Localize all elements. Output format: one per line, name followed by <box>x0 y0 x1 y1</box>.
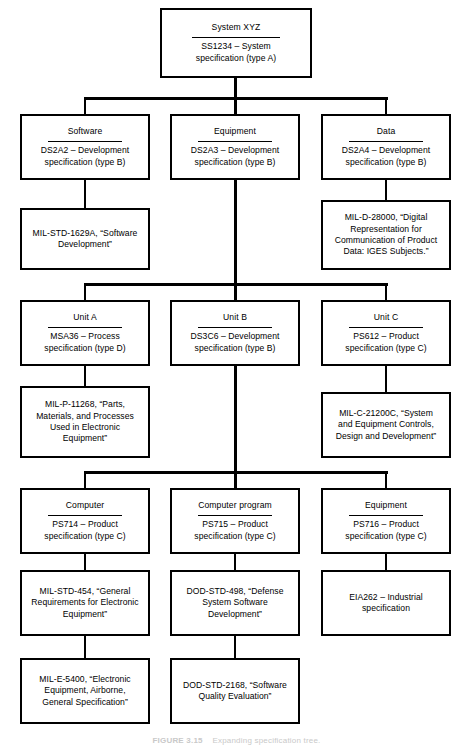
node-system-xyz[interactable]: System XYZ SS1234 – System specification… <box>160 8 312 78</box>
node-dod-std-2168[interactable]: DOD-STD-2168, “Software Quality Evaluati… <box>170 658 300 724</box>
node-mil-e-5400-text: MIL-E-5400, “Electronic Equipment, Airbo… <box>39 674 130 708</box>
figure-caption-text: Expanding specification tree. <box>212 736 320 745</box>
connector-equipment-level4-to-standard <box>385 554 387 570</box>
node-mil-p-11268[interactable]: MIL-P-11268, “Parts, Materials, and Proc… <box>20 386 150 458</box>
node-divider <box>198 515 272 516</box>
node-divider <box>349 515 423 516</box>
connector-bus-level2-right-drop <box>385 97 387 114</box>
node-equipment-level2-spec: DS2A3 – Development specification (type … <box>191 145 279 167</box>
node-divider <box>48 515 122 516</box>
connector-system-down <box>234 78 237 98</box>
connector-data-to-standard <box>385 180 387 200</box>
node-software-spec: DS2A2 – Development specification (type … <box>41 145 129 167</box>
node-divider <box>48 141 122 142</box>
node-computer-program-spec: PS715 – Product specification (type C) <box>194 519 275 541</box>
specification-tree-diagram: System XYZ SS1234 – System specification… <box>0 0 473 747</box>
node-divider <box>48 327 122 328</box>
node-unit-c-spec: PS612 – Product specification (type C) <box>345 331 426 353</box>
node-unit-a-title: Unit A <box>73 312 97 323</box>
node-dod-std-498-text: DOD-STD-498, “Defense System Software De… <box>186 586 283 620</box>
node-unit-b-title: Unit B <box>223 312 247 323</box>
connector-bus-level3-right-drop <box>385 283 387 300</box>
connector-bus-level4-left-drop <box>84 471 86 488</box>
node-system-xyz-title: System XYZ <box>212 22 261 33</box>
connector-software-to-standard <box>84 180 86 208</box>
node-software-title: Software <box>68 126 103 137</box>
node-mil-c-21200c[interactable]: MIL-C-21200C, “System and Equipment Cont… <box>321 392 451 458</box>
node-unit-c-title: Unit C <box>374 312 398 323</box>
node-data[interactable]: Data DS2A4 – Development specification (… <box>321 114 451 180</box>
node-mil-d-28000[interactable]: MIL-D-28000, “Digital Representation for… <box>321 200 451 270</box>
node-system-xyz-spec: SS1234 – System specification (type A) <box>196 41 276 63</box>
connector-equipment-level2-trunk <box>234 180 237 284</box>
node-mil-std-1629a-text: MIL-STD-1629A, “Software Development” <box>33 228 138 251</box>
node-computer-program[interactable]: Computer program PS715 – Product specifi… <box>170 488 300 554</box>
node-equipment-level4-title: Equipment <box>365 500 407 511</box>
node-divider <box>198 327 272 328</box>
node-divider <box>349 141 423 142</box>
connector-bus-level2-left-drop <box>84 97 86 114</box>
connector-bus-level3-left-drop <box>84 283 86 300</box>
node-computer-title: Computer <box>66 500 105 511</box>
node-equipment-level4-spec: PS716 – Product specification (type C) <box>345 519 426 541</box>
node-mil-c-21200c-text: MIL-C-21200C, “System and Equipment Cont… <box>336 408 437 442</box>
node-eia262-text: EIA262 – Industrial specification <box>349 592 423 615</box>
node-unit-c[interactable]: Unit C PS612 – Product specification (ty… <box>321 300 451 366</box>
connector-mil-std-454-to-mil-e-5400 <box>84 636 86 658</box>
node-software[interactable]: Software DS2A2 – Development specificati… <box>20 114 150 180</box>
node-equipment-level2-title: Equipment <box>214 126 256 137</box>
connector-unit-b-trunk <box>234 366 237 472</box>
node-eia262[interactable]: EIA262 – Industrial specification <box>321 570 451 636</box>
connector-bus-level2-mid-drop <box>234 97 237 114</box>
node-data-title: Data <box>377 126 396 137</box>
connector-dod-std-498-to-dod-std-2168 <box>234 636 236 658</box>
node-divider <box>198 141 272 142</box>
node-mil-e-5400[interactable]: MIL-E-5400, “Electronic Equipment, Airbo… <box>20 658 150 724</box>
node-divider <box>349 327 423 328</box>
node-unit-a-spec: MSA36 – Process specification (type D) <box>44 331 125 353</box>
node-computer-spec: PS714 – Product specification (type C) <box>44 519 125 541</box>
node-dod-std-2168-text: DOD-STD-2168, “Software Quality Evaluati… <box>183 680 287 703</box>
node-mil-d-28000-text: MIL-D-28000, “Digital Representation for… <box>335 212 437 258</box>
connector-bus-level4-mid-drop <box>234 471 237 488</box>
node-computer[interactable]: Computer PS714 – Product specification (… <box>20 488 150 554</box>
node-divider <box>192 37 280 38</box>
node-data-spec: DS2A4 – Development specification (type … <box>342 145 430 167</box>
figure-caption-label: FIGURE 3.15 <box>152 736 202 745</box>
node-equipment-level4[interactable]: Equipment PS716 – Product specification … <box>321 488 451 554</box>
node-mil-std-1629a[interactable]: MIL-STD-1629A, “Software Development” <box>20 208 150 270</box>
node-mil-std-454[interactable]: MIL-STD-454, “General Requirements for E… <box>20 570 150 636</box>
node-unit-b-spec: DS3C6 – Development specification (type … <box>191 331 280 353</box>
connector-unit-c-to-standard <box>385 366 387 392</box>
node-dod-std-498[interactable]: DOD-STD-498, “Defense System Software De… <box>170 570 300 636</box>
connector-unit-a-to-standard <box>84 366 86 386</box>
node-equipment-level2[interactable]: Equipment DS2A3 – Development specificat… <box>170 114 300 180</box>
connector-bus-level4-right-drop <box>385 471 387 488</box>
node-unit-a[interactable]: Unit A MSA36 – Process specification (ty… <box>20 300 150 366</box>
node-mil-std-454-text: MIL-STD-454, “General Requirements for E… <box>31 586 138 620</box>
connector-computer-program-to-standard <box>234 554 236 570</box>
connector-bus-level3-mid-drop <box>234 283 237 300</box>
figure-caption: FIGURE 3.15 Expanding specification tree… <box>0 736 473 747</box>
node-mil-p-11268-text: MIL-P-11268, “Parts, Materials, and Proc… <box>36 399 134 445</box>
node-unit-b[interactable]: Unit B DS3C6 – Development specification… <box>170 300 300 366</box>
connector-computer-to-standard <box>84 554 86 570</box>
node-computer-program-title: Computer program <box>198 500 272 511</box>
